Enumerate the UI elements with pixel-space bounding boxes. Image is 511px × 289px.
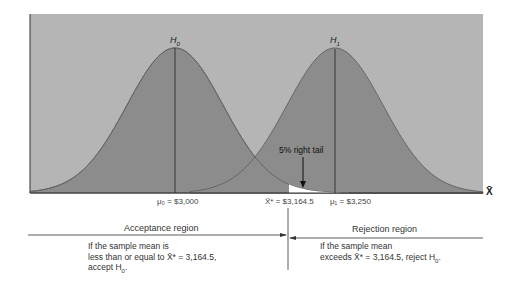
rejection-line-2: exceeds X̄* = 3,164.5, reject H0. [320,252,441,266]
rejection-region-title: Rejection region [352,224,417,234]
rejection-line-1: If the sample mean [320,241,441,252]
acceptance-line-2: less than or equal to X̄* = 3,164.5, [88,252,216,263]
h0-label: H0 [170,35,180,47]
acceptance-region-text: If the sample mean is less than or equal… [88,241,216,276]
acceptance-region-title: Acceptance region [124,223,199,233]
acceptance-arrow-head [280,233,287,237]
tail-annotation: 5% right tail [279,145,323,155]
h1-mean-label: μ₁ = $3,250 [330,197,371,206]
acceptance-line-1: If the sample mean is [88,241,216,252]
h0-mean-label: μ₀ = $3,000 [157,197,199,206]
rejection-arrow-head [289,236,296,240]
critical-value-label: X̄* = $3,164.5 [265,197,314,206]
x-axis-label: X̄ [486,186,493,197]
h1-label: H1 [330,35,340,47]
acceptance-line-3: accept H0. [88,262,216,276]
rejection-region-text: If the sample mean exceeds X̄* = 3,164.5… [320,241,441,266]
